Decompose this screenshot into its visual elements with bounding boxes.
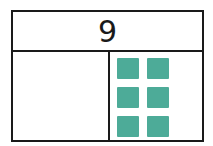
whole-cell: 9 bbox=[13, 12, 202, 52]
part-left-cell bbox=[13, 52, 110, 140]
whole-value: 9 bbox=[98, 17, 117, 47]
part-whole-diagram: 9 bbox=[11, 10, 204, 142]
counter-square bbox=[147, 87, 169, 108]
counter-square bbox=[117, 87, 139, 108]
counter-square bbox=[117, 58, 139, 79]
counter-square bbox=[147, 58, 169, 79]
counter-square bbox=[147, 116, 169, 137]
part-right-cell bbox=[110, 52, 202, 140]
counter-square bbox=[117, 116, 139, 137]
